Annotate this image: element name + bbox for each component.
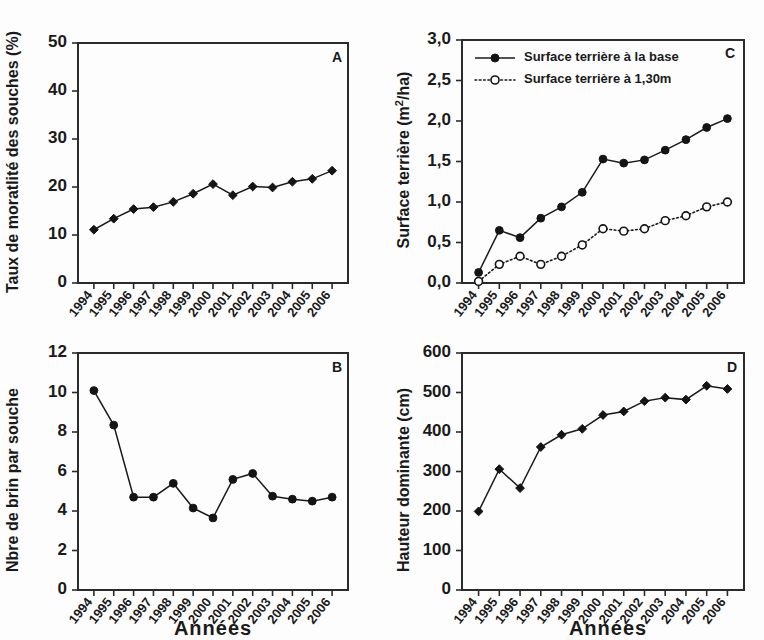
panel-d-xtick-label: 2006 [699, 595, 729, 627]
panel-d-ytick-label: 100 [423, 540, 451, 559]
panel-a-letter: A [332, 49, 342, 65]
panel-a-ytick-label: 50 [48, 32, 67, 51]
panel-b-markers [90, 387, 336, 522]
panel-c: Surface terrière (m2/ha) 0,00,51,01,52,0… [390, 0, 764, 330]
panel-b-ytick-label: 8 [58, 421, 67, 440]
figure-container: Taux de moratlité des souches (%) 010203… [0, 0, 764, 640]
panel-b-yticks: 024681012 [48, 342, 78, 598]
panel-b-yaxis-title-group: Nbre de brin par souche [4, 388, 21, 572]
panel-b-ytick-label: 12 [48, 342, 67, 361]
panel-a-plot: 01020304050 1994199519961997199819992000… [48, 32, 348, 319]
panel-a-ytick-label: 10 [48, 224, 67, 243]
panel-c-series1-line [479, 119, 728, 273]
panel-a-yaxis-title-group: Taux de moratlité des souches (%) [4, 31, 21, 293]
panel-c-xtick-label: 2006 [699, 288, 729, 320]
panel-d-yaxis-title-group: Hauteur dominante (cm) [395, 388, 412, 572]
panel-b-svg: Nbre de brin par souche 024681012 199419… [0, 330, 390, 640]
panel-c-svg: Surface terrière (m2/ha) 0,00,51,01,52,0… [390, 0, 764, 330]
panel-a-yticks: 01020304050 [48, 32, 78, 291]
panel-a-xtick-label: 2006 [304, 288, 334, 320]
panel-c-ytick-label: 1,5 [427, 151, 451, 170]
panel-b-plot: 024681012 199419951996199719981999200020… [48, 342, 348, 639]
panel-c-yaxis-title-pre: Surface terrière (m [395, 106, 412, 248]
panel-b: Nbre de brin par souche 024681012 199419… [0, 330, 390, 640]
panel-a-ytick-label: 0 [58, 272, 67, 291]
panel-d-letter: D [727, 359, 737, 375]
panel-c-yaxis-title: Surface terrière (m2/ha) [393, 72, 412, 249]
panel-c-yaxis-title-group: Surface terrière (m2/ha) [393, 72, 412, 249]
panel-d-ytick-label: 0 [442, 579, 451, 598]
panel-d-yticks: 0100200300400500600 [423, 342, 462, 598]
panel-c-ytick-label: 0,5 [427, 232, 451, 251]
panel-b-ytick-label: 6 [58, 461, 67, 480]
panel-b-yaxis-title: Nbre de brin par souche [4, 388, 21, 572]
panel-a-ytick-label: 40 [48, 80, 67, 99]
panel-a-ytick-label: 30 [48, 128, 67, 147]
panel-d-svg: Hauteur dominante (cm) 01002003004005006… [390, 330, 764, 640]
panel-c-ytick-label: 2,0 [427, 110, 451, 129]
panel-d-ytick-label: 300 [423, 461, 451, 480]
panel-b-xaxis-title: Années [174, 617, 252, 639]
panel-a-yaxis-title: Taux de moratlité des souches (%) [4, 31, 21, 293]
panel-d-ytick-label: 400 [423, 421, 451, 440]
panel-d-ytick-label: 200 [423, 500, 451, 519]
legend-marker-series1 [491, 54, 499, 62]
panel-d-markers [474, 381, 732, 515]
panel-d-ytick-label: 600 [423, 342, 451, 361]
panel-c-series1-markers [475, 115, 732, 277]
panel-a-markers [89, 166, 336, 234]
panel-c-letter: C [725, 45, 735, 61]
panel-a-xtick-labels: 1994199519961997199819992000200120022003… [66, 287, 334, 320]
legend-label-series2: Surface terrière à 1,30m [524, 71, 671, 86]
panel-b-xtick-label: 2006 [304, 595, 334, 627]
panel-c-xtick-labels: 1994199519961997199819992000200120022003… [450, 287, 728, 320]
panel-d-ytick-label: 500 [423, 382, 451, 401]
panel-d-yaxis-title: Hauteur dominante (cm) [395, 388, 412, 572]
panel-d-plot: 0100200300400500600 19941995199619971998… [423, 342, 744, 639]
legend-label-series1: Surface terrière à la base [524, 49, 679, 64]
panel-c-yticks: 0,00,51,01,52,02,53,0 [427, 29, 462, 291]
panel-c-series2-markers [475, 198, 732, 285]
panel-a: Taux de moratlité des souches (%) 010203… [0, 0, 390, 330]
panel-b-ytick-label: 2 [58, 540, 67, 559]
panel-c-yaxis-title-post: /ha) [395, 72, 412, 100]
legend-marker-series2 [491, 76, 499, 84]
panel-c-legend: Surface terrière à la base Surface terri… [475, 49, 679, 86]
panel-b-frame [78, 353, 348, 590]
panel-b-ytick-label: 10 [48, 382, 67, 401]
panel-d-series-line [479, 386, 728, 512]
panel-d: Hauteur dominante (cm) 01002003004005006… [390, 330, 764, 640]
panel-b-ytick-label: 0 [58, 579, 67, 598]
panel-a-svg: Taux de moratlité des souches (%) 010203… [0, 0, 390, 330]
panel-b-ytick-label: 4 [58, 500, 68, 519]
panel-b-letter: B [332, 359, 342, 375]
panel-d-xaxis-title: Années [569, 617, 647, 639]
panel-a-frame [78, 43, 348, 283]
panel-c-ytick-label: 3,0 [427, 29, 451, 48]
panel-c-ytick-label: 0,0 [427, 272, 451, 291]
panel-a-ytick-label: 20 [48, 176, 67, 195]
panel-c-ytick-label: 1,0 [427, 191, 451, 210]
panel-c-plot: 0,00,51,01,52,02,53,0 199419951996199719… [427, 29, 744, 319]
panel-c-ytick-label: 2,5 [427, 70, 451, 89]
